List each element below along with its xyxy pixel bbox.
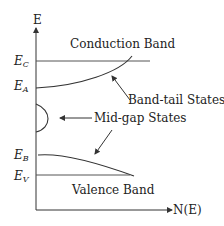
valence-band-label: Valence Band <box>72 184 154 196</box>
conduction-band-label: Conduction Band <box>70 38 175 50</box>
density-axis-label: N(E) <box>173 204 202 216</box>
energy-axis-label: E <box>33 14 42 26</box>
mid-gap-states-label: Mid-gap States <box>94 112 186 124</box>
mid-gap-curve <box>36 104 48 132</box>
valence-tail-curve <box>38 155 134 176</box>
level-ev: EV <box>14 170 29 184</box>
level-ec: EC <box>14 55 29 69</box>
level-eb: EB <box>14 149 29 163</box>
band-tail-arrow-down <box>95 130 112 154</box>
band-tail-states-label: Band-tail States <box>128 94 224 106</box>
level-ea: EA <box>14 80 29 94</box>
